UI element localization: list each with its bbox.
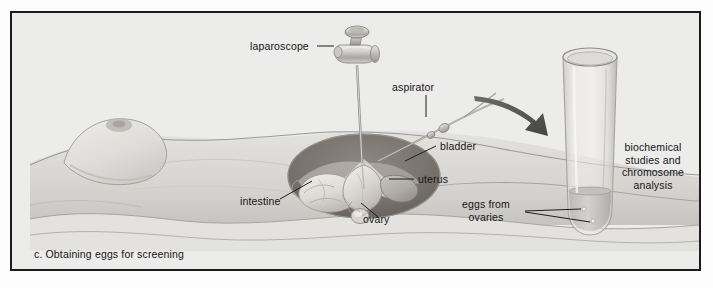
label-ovary: ovary xyxy=(363,213,389,226)
label-analysis-block: biochemical studies and chromosome analy… xyxy=(613,141,693,191)
label-intestine: intestine xyxy=(240,195,280,208)
label-eggs-line-1: eggs from xyxy=(450,198,522,211)
label-laparoscope: laparoscope xyxy=(250,40,309,53)
label-eggs-line-2: ovaries xyxy=(450,211,522,224)
label-aspirator: aspirator xyxy=(392,81,434,94)
figure-page: laparoscope aspirator bladder uterus int… xyxy=(0,0,713,288)
label-bladder: bladder xyxy=(440,140,476,153)
label-analysis-line-4: analysis xyxy=(613,179,693,192)
label-eggs-from-ovaries: eggs from ovaries xyxy=(450,198,522,223)
label-analysis-line-1: biochemical xyxy=(613,141,693,154)
label-analysis-line-3: chromosome xyxy=(613,166,693,179)
test-tube xyxy=(563,48,617,235)
figure-frame: laparoscope aspirator bladder uterus int… xyxy=(10,11,701,271)
medical-illustration xyxy=(12,13,699,269)
label-uterus: uterus xyxy=(418,173,448,186)
figure-caption: c. Obtaining eggs for screening xyxy=(34,248,184,260)
label-analysis-line-2: studies and xyxy=(613,154,693,167)
